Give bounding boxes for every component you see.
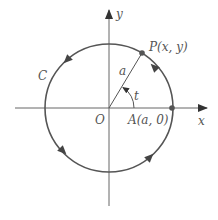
point-A xyxy=(169,105,175,111)
y-axis-label: y xyxy=(115,7,123,21)
angle-label: t xyxy=(134,89,139,103)
point-P-label: P(x, y) xyxy=(148,40,188,54)
origin-label: O xyxy=(95,113,105,127)
angle-arc xyxy=(123,88,134,109)
point-P xyxy=(139,50,145,56)
circle-diagram: y x O P(x, y) A(a, 0) a t C xyxy=(0,0,218,220)
x-axis-label: x xyxy=(198,114,205,128)
radius-label: a xyxy=(119,64,126,78)
curve-label: C xyxy=(38,69,47,83)
point-A-label: A(a, 0) xyxy=(127,113,169,127)
